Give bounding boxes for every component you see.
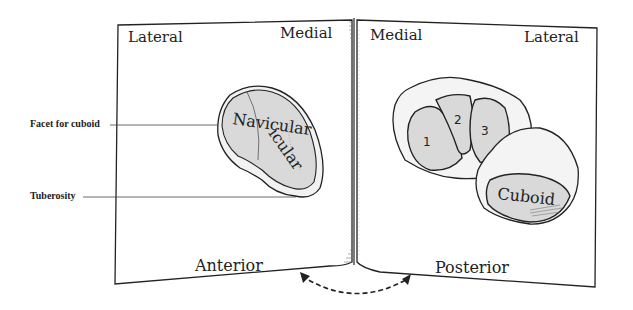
cuneiform-2-label: 2	[454, 113, 462, 127]
cuneiform-1-label: 1	[423, 135, 431, 149]
left-corner-medial: Medial	[280, 24, 333, 42]
book-illustration: Lateral Medial Medial Lateral Navicular …	[0, 0, 633, 310]
callout-tuberosity: Tuberosity	[30, 190, 76, 201]
rotation-arrow	[300, 272, 411, 294]
left-corner-lateral: Lateral	[128, 28, 183, 46]
right-corner-medial: Medial	[370, 26, 423, 44]
callout-facet-for-cuboid: Facet for cuboid	[30, 118, 100, 129]
posterior-label: Posterior	[435, 258, 509, 277]
anterior-label: Anterior	[194, 256, 263, 275]
navicular-bone: Navicular icular	[218, 86, 323, 197]
right-corner-lateral: Lateral	[524, 28, 579, 46]
diagram-stage: Lateral Medial Medial Lateral Navicular …	[0, 0, 633, 310]
cuneiforms-and-cuboid: 1 2 3 Cuboid	[393, 77, 578, 224]
cuneiform-3-label: 3	[481, 124, 489, 138]
